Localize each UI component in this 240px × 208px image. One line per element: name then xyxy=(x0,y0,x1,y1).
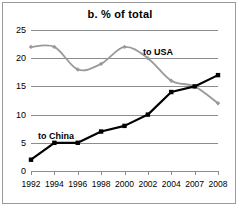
x-axis-tick xyxy=(125,171,126,175)
x-axis-tick-label: 1996 xyxy=(68,179,87,189)
x-axis-tick-label: 2000 xyxy=(115,179,134,189)
y-axis-tick-label: 10 xyxy=(16,110,26,120)
x-axis-tick xyxy=(101,171,102,175)
x-axis-tick-label: 2008 xyxy=(209,179,228,189)
x-axis-tick-label: 1994 xyxy=(45,179,64,189)
y-axis-tick-label: 5 xyxy=(21,138,26,148)
y-axis-tick-label: 25 xyxy=(16,25,26,35)
data-point-marker xyxy=(52,141,56,145)
y-axis-tick-label: 15 xyxy=(16,81,26,91)
x-axis-tick xyxy=(148,171,149,175)
data-point-marker xyxy=(146,112,150,116)
x-axis-tick-label: 2004 xyxy=(162,179,181,189)
x-axis-tick xyxy=(54,171,55,175)
series-layer xyxy=(31,30,218,171)
x-axis-tick xyxy=(78,171,79,175)
data-point-marker xyxy=(76,141,80,145)
y-axis-tick-label: 0 xyxy=(21,166,26,176)
data-point-marker xyxy=(122,45,126,49)
series-label-to-china: to China xyxy=(38,131,74,141)
x-axis-tick-label: 2007 xyxy=(185,179,204,189)
data-point-marker xyxy=(192,84,196,88)
x-axis-tick xyxy=(31,171,32,175)
data-point-marker xyxy=(99,129,103,133)
series-line-to-china xyxy=(31,75,218,160)
x-axis-tick-label: 1992 xyxy=(22,179,41,189)
chart-title: b. % of total xyxy=(0,8,240,20)
y-axis-tick-label: 20 xyxy=(16,53,26,63)
x-axis-tick-label: 2002 xyxy=(138,179,157,189)
data-point-marker xyxy=(169,90,173,94)
x-axis-tick-label: 1998 xyxy=(92,179,111,189)
series-line-to-usa xyxy=(31,45,218,103)
chart-figure: b. % of total 0510152025 to USA to China… xyxy=(0,0,240,208)
x-axis-tick xyxy=(218,171,219,175)
data-point-marker xyxy=(216,73,220,77)
series-label-to-usa: to USA xyxy=(143,47,173,57)
x-axis-tick xyxy=(195,171,196,175)
data-point-marker xyxy=(29,158,33,162)
data-point-marker xyxy=(122,124,126,128)
x-axis-tick xyxy=(171,171,172,175)
